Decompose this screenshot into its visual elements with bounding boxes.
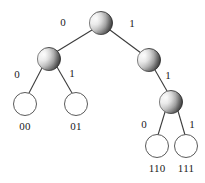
leaf-node-00[interactable] <box>14 93 37 116</box>
node-0[interactable] <box>38 48 61 71</box>
tree-edges <box>29 30 185 135</box>
leaf-label-00: 00 <box>19 120 31 132</box>
edge-label-n11-right: 1 <box>189 118 195 130</box>
tree-canvas: 0 1 0 1 1 0 1 00 01 110 111 <box>0 0 205 183</box>
edge-label-n0-left: 0 <box>14 68 20 80</box>
edge-label-n0-right: 1 <box>69 67 75 79</box>
edge-n11-leaf110 <box>158 112 165 135</box>
edge-n11-leaf111 <box>178 111 185 135</box>
leaf-label-111: 111 <box>178 162 194 174</box>
leaf-node-01[interactable] <box>65 93 88 116</box>
edge-label-root-left: 0 <box>60 16 66 28</box>
internal-nodes <box>38 12 183 114</box>
edge-root-left <box>56 30 92 52</box>
leaf-label-110: 110 <box>149 162 166 174</box>
leaf-node-110[interactable] <box>146 135 169 158</box>
edge-label-root-right: 1 <box>129 17 135 29</box>
edge-label-n11-left: 0 <box>141 118 147 130</box>
edge-n0-leaf00 <box>29 68 42 93</box>
binary-tree-diagram: 0 1 0 1 1 0 1 00 01 110 111 <box>0 0 205 183</box>
edge-label-n1-right: 1 <box>165 69 171 81</box>
node-1[interactable] <box>138 49 161 72</box>
leaf-label-01: 01 <box>70 120 81 132</box>
leaf-node-111[interactable] <box>175 135 198 158</box>
node-root[interactable] <box>90 12 113 35</box>
edge-root-right <box>110 30 141 53</box>
node-11[interactable] <box>160 91 183 114</box>
